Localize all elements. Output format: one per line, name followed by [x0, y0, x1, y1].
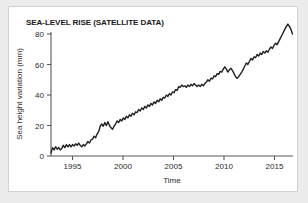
x-tick-label-2005: 2005: [165, 162, 183, 171]
y-axis-title: Sea height variation (mm): [15, 48, 24, 140]
sea-level-line-chart: 80 60 40 20 0 Sea height variation (mm) …: [9, 7, 299, 193]
x-tick-label-2015: 2015: [266, 162, 284, 171]
x-tick-label-2010: 2010: [215, 162, 233, 171]
x-axis: 1995 2000 2005 2010 2015 Time: [51, 156, 293, 185]
y-tick-label-0: 0: [40, 152, 45, 161]
y-tick-label-40: 40: [35, 91, 44, 100]
x-tick-label-1995: 1995: [64, 162, 82, 171]
y-tick-label-80: 80: [35, 30, 44, 39]
sea-level-data-line: [51, 24, 292, 153]
x-axis-title: Time: [163, 176, 181, 185]
y-tick-label-20: 20: [35, 122, 44, 131]
figure-panel: SEA-LEVEL RISE (SATELLITE DATA) 80 60 40…: [8, 6, 298, 192]
x-tick-label-2000: 2000: [114, 162, 132, 171]
y-axis: 80 60 40 20 0 Sea height variation (mm): [15, 30, 51, 161]
y-tick-label-60: 60: [35, 61, 44, 70]
